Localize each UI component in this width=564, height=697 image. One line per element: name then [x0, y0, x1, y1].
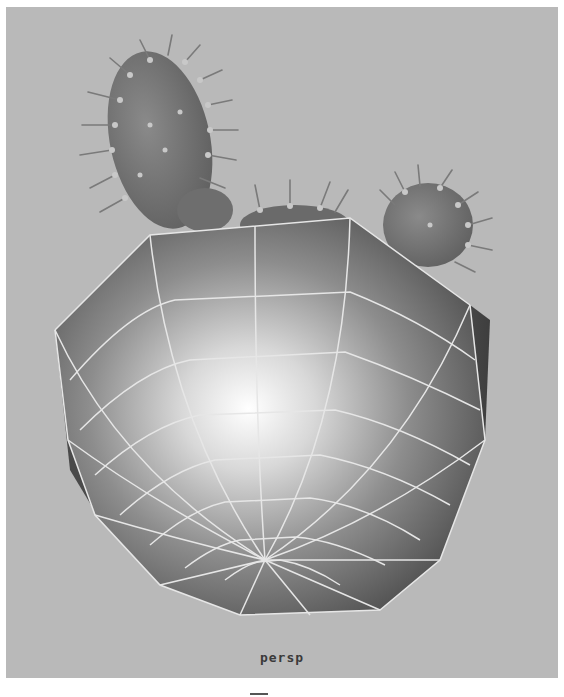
- flower-pot[interactable]: [55, 218, 490, 615]
- scene-render[interactable]: [6, 7, 558, 678]
- camera-label: persp: [6, 650, 558, 665]
- caption-fragment: [250, 693, 268, 695]
- persp-viewport[interactable]: persp: [6, 7, 558, 678]
